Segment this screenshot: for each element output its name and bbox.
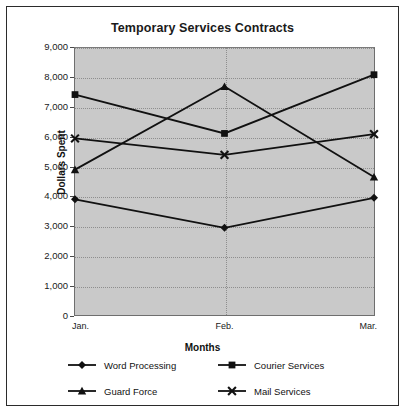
y-tick-label: 1,000 bbox=[10, 281, 68, 291]
legend-label: Courier Services bbox=[254, 360, 324, 371]
legend-item[interactable]: Mail Services bbox=[217, 385, 367, 397]
x-tick-label: Mar. bbox=[359, 321, 377, 331]
y-tick-label: 5,000 bbox=[10, 162, 68, 172]
chart-title: Temporary Services Contracts bbox=[7, 21, 398, 35]
chart-legend: Word ProcessingCourier ServicesGuard For… bbox=[67, 359, 367, 397]
data-point-square bbox=[371, 71, 378, 78]
legend-marker-x-icon bbox=[217, 385, 247, 397]
data-point-diamond bbox=[78, 361, 86, 369]
series-line bbox=[75, 198, 374, 228]
legend-item[interactable]: Word Processing bbox=[67, 359, 217, 371]
y-tick-mark bbox=[70, 316, 74, 317]
chart-frame: Temporary Services Contracts Dollars Spe… bbox=[6, 6, 399, 406]
y-tick-label: 2,000 bbox=[10, 251, 68, 261]
data-point-diamond bbox=[370, 194, 378, 202]
data-point-triangle bbox=[370, 173, 378, 181]
data-point-square bbox=[72, 91, 79, 98]
data-point-triangle bbox=[220, 82, 228, 90]
legend-label: Mail Services bbox=[254, 386, 311, 397]
legend-label: Word Processing bbox=[104, 360, 176, 371]
y-tick-label: 8,000 bbox=[10, 72, 68, 82]
x-tick-label: Feb. bbox=[215, 321, 233, 331]
legend-label: Guard Force bbox=[104, 386, 157, 397]
y-tick-label: 9,000 bbox=[10, 42, 68, 52]
plot-area bbox=[74, 47, 375, 316]
data-point-square bbox=[221, 130, 228, 137]
x-axis-label: Months bbox=[7, 342, 398, 353]
legend-marker-triangle-icon bbox=[67, 385, 97, 397]
data-point-diamond bbox=[221, 224, 229, 232]
x-tick-label: Jan. bbox=[72, 321, 89, 331]
data-point-square bbox=[229, 362, 236, 369]
y-tick-label: 4,000 bbox=[10, 191, 68, 201]
y-tick-label: 6,000 bbox=[10, 132, 68, 142]
legend-marker-diamond-icon bbox=[67, 359, 97, 371]
series-lines bbox=[75, 48, 374, 315]
legend-item[interactable]: Guard Force bbox=[67, 385, 217, 397]
y-tick-label: 7,000 bbox=[10, 102, 68, 112]
y-tick-label: 3,000 bbox=[10, 221, 68, 231]
y-tick-label: 0 bbox=[10, 311, 68, 321]
legend-marker-square-icon bbox=[217, 359, 247, 371]
legend-item[interactable]: Courier Services bbox=[217, 359, 367, 371]
